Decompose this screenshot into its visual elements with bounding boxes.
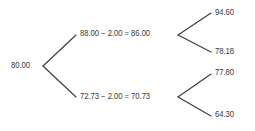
tree-node-root: 80.00 [11,62,30,70]
tree-node-up: 88.00 − 2.00 = 86.00 [80,30,150,38]
edge-up-to-up-down [178,35,211,52]
edge-root-to-up [43,35,76,66]
edge-root-to-down [43,66,76,97]
binomial-tree-figure: 80.00 88.00 − 2.00 = 86.00 72.73 − 2.00 … [0,0,255,131]
tree-node-down: 72.73 − 2.00 = 70.73 [80,93,150,101]
edge-up-to-up-up [178,13,211,35]
edge-down-to-down-down [178,97,211,116]
tree-leaf-up-up: 94.60 [215,9,234,17]
tree-leaf-up-down: 78.18 [215,48,234,56]
tree-leaf-down-down: 64.30 [215,111,234,119]
edge-down-to-down-up [178,74,211,97]
tree-leaf-down-up: 77.80 [215,69,234,77]
